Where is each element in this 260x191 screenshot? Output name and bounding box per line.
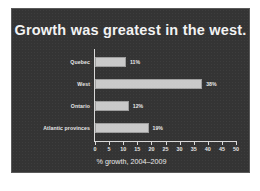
bar-row: West 38% <box>95 73 236 95</box>
x-tick <box>236 141 237 145</box>
x-tick <box>109 141 110 145</box>
x-tick <box>151 141 152 145</box>
x-tick-label: 5 <box>108 146 111 152</box>
value-label-quebec: 11% <box>130 59 140 65</box>
x-tick-label: 50 <box>233 146 239 152</box>
category-label-ontario: Ontario <box>71 103 90 109</box>
x-tick-label: 45 <box>219 146 225 152</box>
x-tick-label: 10 <box>120 146 126 152</box>
bar-chart: Quebec 11% West 38% Ontario 12% Atlantic… <box>12 45 250 173</box>
x-tick <box>123 141 124 145</box>
category-label-atlantic-provinces: Atlantic provinces <box>43 125 90 131</box>
x-tick <box>180 141 181 145</box>
x-tick <box>95 141 96 145</box>
bar-row: Atlantic provinces 19% <box>95 117 236 139</box>
slide-title: Growth was greatest in the west. <box>12 22 249 38</box>
presentation-slide: Growth was greatest in the west. Quebec … <box>11 8 250 173</box>
x-axis-title: % growth, 2004–2009 <box>12 157 250 166</box>
category-label-west: West <box>77 81 90 87</box>
category-label-quebec: Quebec <box>70 59 90 65</box>
bar-row: Quebec 11% <box>95 51 236 73</box>
screenshot-page: Growth was greatest in the west. Quebec … <box>0 0 260 191</box>
bar-ontario <box>95 101 129 111</box>
plot-area: Quebec 11% West 38% Ontario 12% Atlantic… <box>95 51 236 139</box>
value-label-west: 38% <box>206 81 216 87</box>
bar-row: Ontario 12% <box>95 95 236 117</box>
x-tick-label: 20 <box>148 146 154 152</box>
x-tick-label: 40 <box>205 146 211 152</box>
x-tick-label: 30 <box>177 146 183 152</box>
bar-west <box>95 79 202 89</box>
x-tick <box>222 141 223 145</box>
x-tick <box>166 141 167 145</box>
x-tick <box>194 141 195 145</box>
x-tick <box>137 141 138 145</box>
value-label-atlantic-provinces: 19% <box>153 125 163 131</box>
bar-atlantic-provinces <box>95 123 149 133</box>
x-tick-label: 35 <box>191 146 197 152</box>
bar-quebec <box>95 57 126 67</box>
x-tick-label: 15 <box>134 146 140 152</box>
value-label-ontario: 12% <box>133 103 143 109</box>
x-tick-label: 25 <box>163 146 169 152</box>
x-tick <box>208 141 209 145</box>
x-tick-label: 0 <box>94 146 97 152</box>
